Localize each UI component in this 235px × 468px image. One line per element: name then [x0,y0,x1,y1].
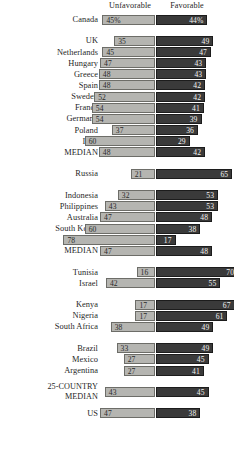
bar-segment-favorable: 48 [156,246,213,256]
bar-value-favorable: 44% [189,16,203,25]
bar-value-favorable: 61 [216,312,224,321]
bar-value-unfavorable: 45% [106,16,120,25]
bar-segment-favorable: 38 [156,224,201,234]
chart-row: Nigeria1761 [0,310,234,321]
bar-value-unfavorable: 78 [67,236,75,245]
chart-row: Russia2165 [0,168,234,179]
chart-row: Germany5439 [0,113,234,124]
diverging-bar-chart: Unfavorable Favorable Canada45%44%UK3549… [0,0,234,468]
bar-segment-unfavorable: 48 [99,69,156,79]
row-bars: 2745 [0,354,234,364]
row-bars: 4255 [0,278,234,288]
bar-value-unfavorable: 16 [141,268,149,277]
bar-value-unfavorable: 33 [121,344,129,353]
row-bars: 5242 [0,92,234,102]
bar-segment-favorable: 53 [156,190,219,200]
bar-segment-favorable: 36 [156,125,198,135]
bar-value-unfavorable: 17 [139,312,147,321]
bar-value-unfavorable: 48 [103,148,111,157]
bar-segment-favorable: 55 [156,278,221,288]
bar-segment-favorable: 49 [156,343,214,353]
row-bars: 4738 [0,408,234,418]
row-bars: 3849 [0,322,234,332]
bar-segment-favorable: 45 [156,354,209,364]
row-bars: 6029 [0,136,234,146]
bar-value-favorable: 49 [202,37,210,46]
bar-segment-favorable: 70 [156,267,235,277]
chart-row: Sweden5242 [0,91,234,102]
bar-segment-favorable: 49 [156,36,214,46]
bar-value-unfavorable: 60 [89,137,97,146]
row-bars: 7817 [0,235,234,245]
bar-value-unfavorable: 48 [103,70,111,79]
bar-segment-favorable: 29 [156,136,190,146]
bar-segment-favorable: 48 [156,212,213,222]
bar-segment-unfavorable: 35 [114,36,155,46]
chart-row: UK3549 [0,35,234,46]
bar-value-unfavorable: 43 [109,388,117,397]
bar-segment-unfavorable: 47 [100,58,155,68]
chart-legend: Unfavorable Favorable [0,1,234,11]
legend-favorable-label: Favorable [160,1,214,10]
bar-value-unfavorable: 37 [116,126,124,135]
bar-value-favorable: 67 [223,301,231,310]
bar-segment-unfavorable: 60 [85,136,156,146]
row-bars: 4843 [0,69,234,79]
bar-segment-unfavorable: 54 [92,114,156,124]
bar-segment-favorable: 41 [156,103,204,113]
bar-segment-unfavorable: 42 [106,278,156,288]
bar-segment-unfavorable: 21 [131,169,156,179]
bar-value-favorable: 43 [194,59,202,68]
bar-segment-favorable: 53 [156,201,219,211]
row-bars: 45%44% [0,15,234,25]
bar-segment-unfavorable: 47 [100,246,155,256]
bar-value-unfavorable: 52 [98,93,106,102]
row-bars: 3736 [0,125,234,135]
chart-row: Greece4843 [0,69,234,80]
bar-value-favorable: 55 [209,279,217,288]
bar-value-favorable: 38 [189,409,197,418]
chart-row: Australia4748 [0,212,234,223]
bar-segment-favorable: 42 [156,147,206,157]
row-bars: 4842 [0,147,234,157]
bar-segment-unfavorable: 27 [124,354,156,364]
bar-segment-unfavorable: 60 [85,224,156,234]
bar-value-unfavorable: 47 [104,247,112,256]
bar-value-unfavorable: 35 [118,37,126,46]
chart-row: South Africa3849 [0,321,234,332]
bar-segment-unfavorable: 37 [112,125,156,135]
bar-value-favorable: 38 [189,225,197,234]
bar-value-favorable: 47 [199,48,207,57]
bar-value-favorable: 45 [197,355,205,364]
bar-segment-unfavorable: 32 [118,190,156,200]
bar-value-unfavorable: 47 [104,59,112,68]
row-bars: 3253 [0,190,234,200]
chart-row: Argentina2741 [0,365,234,376]
bar-value-unfavorable: 42 [110,279,118,288]
chart-row: Brazil3349 [0,343,234,354]
bar-value-favorable: 39 [190,115,198,124]
bar-value-unfavorable: 60 [89,225,97,234]
row-bars: 2165 [0,169,234,179]
bar-value-favorable: 48 [200,247,208,256]
bar-segment-favorable: 49 [156,322,214,332]
bar-value-unfavorable: 47 [104,409,112,418]
bar-value-favorable: 48 [200,213,208,222]
bar-value-favorable: 70 [226,268,234,277]
chart-row: MEDIAN4842 [0,147,234,158]
chart-row: US4738 [0,408,234,419]
row-bars: 4748 [0,212,234,222]
bar-value-favorable: 49 [202,344,210,353]
bar-segment-unfavorable: 16 [137,267,156,277]
bar-segment-favorable: 43 [156,58,207,68]
bar-segment-favorable: 42 [156,80,206,90]
bar-value-favorable: 43 [194,70,202,79]
bar-value-unfavorable: 47 [104,213,112,222]
bar-value-favorable: 29 [178,137,186,146]
row-bars: 4748 [0,246,234,256]
row-bars: 1670 [0,267,234,277]
bar-value-unfavorable: 54 [96,104,104,113]
bar-segment-favorable: 65 [156,169,233,179]
bar-value-favorable: 42 [193,81,201,90]
chart-row: Canada45%44% [0,14,234,25]
